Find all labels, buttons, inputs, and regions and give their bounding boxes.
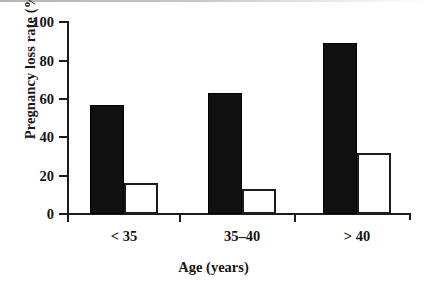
y-tick-label-100: 100	[0, 15, 54, 30]
x-tick-2	[294, 215, 296, 222]
y-tick-label-60: 60	[0, 92, 54, 107]
x-tick-label-35to40: 35–40	[197, 228, 287, 245]
x-axis-title: Age (years)	[0, 259, 427, 276]
x-tick-label-gt40: > 40	[312, 228, 402, 245]
bar-open-35to40	[242, 189, 276, 214]
x-tick-start	[67, 215, 69, 222]
bar-filled-gt40	[323, 43, 357, 214]
y-tick-60	[59, 98, 68, 100]
x-axis-end-tick	[409, 213, 411, 220]
scan-artifact-line	[0, 0, 427, 2]
y-tick-label-80: 80	[0, 54, 54, 69]
bar-open-gt40	[357, 153, 391, 214]
y-axis-line	[67, 21, 69, 215]
bar-filled-lt35	[90, 105, 124, 214]
y-tick-80	[59, 60, 68, 62]
x-tick-label-lt35: < 35	[79, 228, 169, 245]
bar-chart-figure: Pregnancy loss rate (%) 0 20 40 60 80 10…	[0, 0, 427, 291]
y-tick-100	[59, 21, 68, 23]
bar-open-lt35	[124, 183, 158, 214]
y-tick-label-0: 0	[0, 207, 54, 222]
x-tick-1	[179, 215, 181, 222]
y-tick-40	[59, 136, 68, 138]
y-tick-20	[59, 175, 68, 177]
y-tick-label-40: 40	[0, 130, 54, 145]
bar-filled-35to40	[208, 93, 242, 214]
y-tick-label-20: 20	[0, 169, 54, 184]
